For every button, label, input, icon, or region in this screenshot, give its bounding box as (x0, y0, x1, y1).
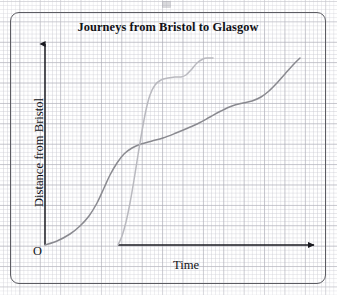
journey-curve-1 (45, 58, 300, 245)
distance-time-plot (0, 0, 337, 295)
journey-curve-2 (118, 58, 213, 245)
